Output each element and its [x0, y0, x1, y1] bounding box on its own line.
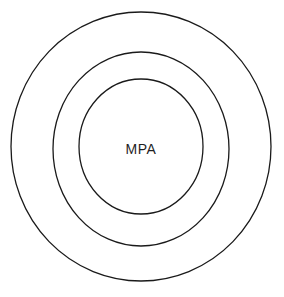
diagram-canvas: MPA — [0, 0, 284, 297]
concentric-rings-diagram: MPA — [0, 0, 284, 297]
center-label-mpa: MPA — [125, 141, 156, 157]
